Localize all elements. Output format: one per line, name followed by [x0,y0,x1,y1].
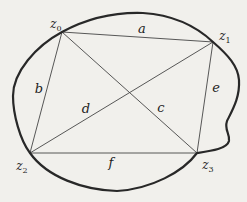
figure-canvas: z0 z1 z2 z3 a b c d e f [0,0,247,202]
edge-label-e: e [212,80,220,95]
edge-label-d: d [82,101,90,116]
edge-label-a: a [138,21,146,36]
geometry-figure: z0 z1 z2 z3 a b c d e f [0,0,247,202]
edge-label-c: c [157,100,165,115]
edge-label-b: b [35,81,43,96]
